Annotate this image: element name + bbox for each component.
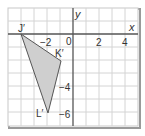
x-tick-neg2: −2	[40, 37, 52, 48]
vertex-label-j: J′	[18, 23, 25, 34]
vertex-label-k: K′	[55, 48, 64, 59]
y-tick-neg6: −6	[59, 109, 71, 120]
origin-label: 0	[66, 36, 72, 47]
x-tick-4: 4	[122, 37, 128, 48]
coordinate-plane: y x 0 −2 2 4 −4 −6 J′ K′ L′	[0, 0, 145, 136]
x-axis-label: x	[128, 21, 135, 33]
y-tick-neg4: −4	[59, 82, 71, 93]
x-tick-2: 2	[96, 37, 102, 48]
vertex-label-l: L′	[36, 108, 44, 119]
coordinate-plane-svg: y x 0 −2 2 4 −4 −6 J′ K′ L′	[0, 0, 145, 136]
